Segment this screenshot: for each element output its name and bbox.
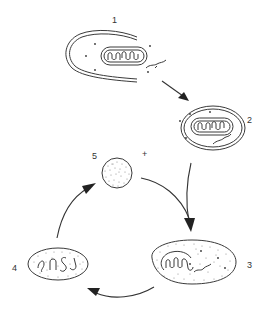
stage-5-stipple (105, 162, 130, 187)
stage-3-stipple (157, 244, 231, 281)
stage-4-cell (28, 248, 88, 280)
stage-4-label: 4 (12, 263, 17, 273)
plus-sign: + (142, 149, 147, 159)
stage-4: 4 (12, 248, 88, 280)
arrow-head-icon (87, 288, 100, 296)
arrow-1-to-2 (162, 81, 189, 101)
arrow-head-icon (82, 183, 96, 194)
arrow-head-icon (184, 218, 195, 232)
arrow-2-to-3 (187, 163, 191, 222)
stage-5: 5 + (92, 149, 147, 188)
stage-2-mitochondrion (191, 118, 233, 135)
stage-3-remnant (161, 251, 211, 272)
stage-1-label: 1 (112, 15, 117, 25)
stage-3-cell (152, 240, 236, 284)
stage-5-label: 5 (92, 151, 97, 161)
cycle-diagram: 1 2 (0, 0, 270, 313)
stage-1-mitochondrion (101, 47, 147, 65)
stage-3: 3 (152, 240, 252, 284)
arrow-4-to-5 (57, 183, 96, 238)
stage-2: 2 (179, 106, 252, 150)
stage-2-label: 2 (247, 115, 252, 125)
stage-3-label: 3 (247, 260, 252, 270)
arrow-3-to-4 (87, 287, 154, 297)
stage-1-fibre (146, 60, 166, 68)
stage-1: 1 (66, 15, 166, 82)
stage-4-fragments (38, 257, 76, 272)
